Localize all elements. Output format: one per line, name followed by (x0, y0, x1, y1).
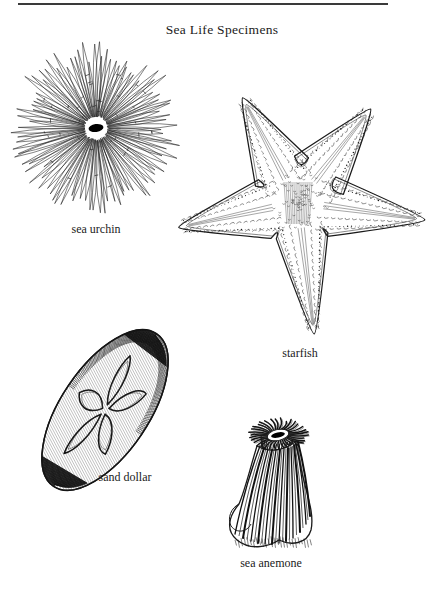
figure-starfish (178, 62, 423, 347)
caption-sea-anemone: sea anemone (206, 556, 336, 571)
starfish-illustration (178, 62, 423, 347)
starfish-body (179, 98, 425, 334)
figure-sand-dollar (12, 328, 208, 468)
sea-urchin-illustration (16, 48, 181, 208)
figure-sea-urchin (16, 48, 181, 208)
caption-sand-dollar: sand dollar (65, 470, 185, 485)
specimen-page: Sea Life Specimens sea urchin starfish (0, 0, 444, 592)
caption-starfish: starfish (240, 346, 360, 361)
sea-anemone-illustration (205, 412, 350, 557)
sand-dollar-illustration (12, 328, 208, 468)
top-horizontal-rule (18, 3, 388, 5)
figure-sea-anemone (205, 412, 350, 557)
page-title: Sea Life Specimens (0, 22, 444, 38)
sea-anemone-column (229, 442, 311, 548)
caption-sea-urchin: sea urchin (36, 222, 156, 237)
